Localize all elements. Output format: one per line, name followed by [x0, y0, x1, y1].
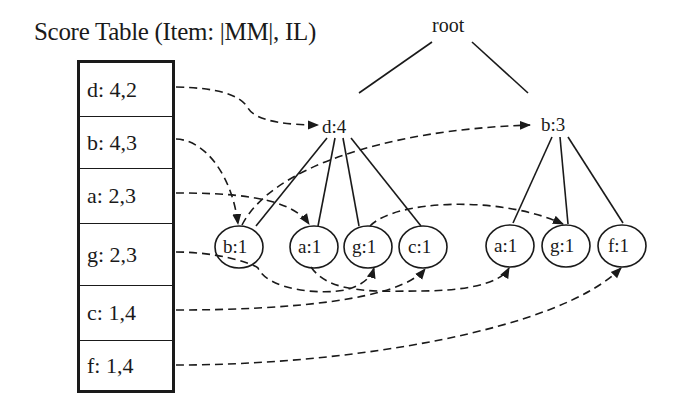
tree-edges: [256, 42, 623, 226]
leaf-label: g:1: [352, 236, 376, 257]
tree-node-b3: b:3: [541, 114, 565, 135]
tree-diagram: d:4 b:3 b:1 a:1 g:1 c:1 a:1 g:1 f:1: [0, 0, 688, 414]
leaf-label: a:1: [298, 236, 321, 257]
leaf-label: b:1: [223, 236, 247, 257]
tree-node-d4: d:4: [322, 116, 347, 137]
leaf-label: a:1: [494, 235, 517, 256]
leaf-label: f:1: [608, 235, 629, 256]
leaf-label: g:1: [550, 235, 574, 256]
leaf-label: c:1: [408, 236, 431, 257]
